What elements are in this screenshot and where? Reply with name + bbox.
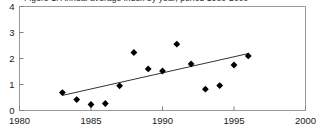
chart-figure: Figure 1. Annual average index by year, …	[0, 0, 321, 136]
y-tick-label: 3	[9, 27, 14, 38]
x-tick-label: 1985	[80, 115, 101, 126]
x-tick-label: 1990	[152, 115, 173, 126]
x-tick-label: 2000	[295, 115, 316, 126]
trend-line	[62, 54, 248, 96]
data-point-core	[118, 84, 122, 88]
data-point-core	[232, 63, 236, 67]
y-tick-label: 2	[9, 53, 14, 64]
data-point-core	[175, 42, 179, 46]
data-point-core	[89, 102, 93, 106]
data-point-core	[132, 50, 136, 54]
data-point-core	[75, 97, 79, 101]
data-point-core	[60, 90, 64, 94]
data-point-core	[218, 83, 222, 87]
trend-line-segment	[62, 54, 248, 96]
data-point-core	[103, 101, 107, 105]
x-axis-ticks: 19801985199019952000	[9, 107, 316, 126]
x-tick-label: 1980	[9, 115, 30, 126]
x-tick-label: 1995	[223, 115, 244, 126]
y-tick-label: 4	[9, 1, 14, 12]
data-point-core	[160, 69, 164, 73]
data-point-core	[146, 67, 150, 71]
scatter-plot: 01234 19801985199019952000	[0, 0, 321, 136]
data-point-core	[246, 54, 250, 58]
data-point-core	[203, 87, 207, 91]
y-axis-ticks: 01234	[9, 1, 23, 116]
data-point-core	[189, 62, 193, 66]
y-tick-label: 1	[9, 79, 14, 90]
